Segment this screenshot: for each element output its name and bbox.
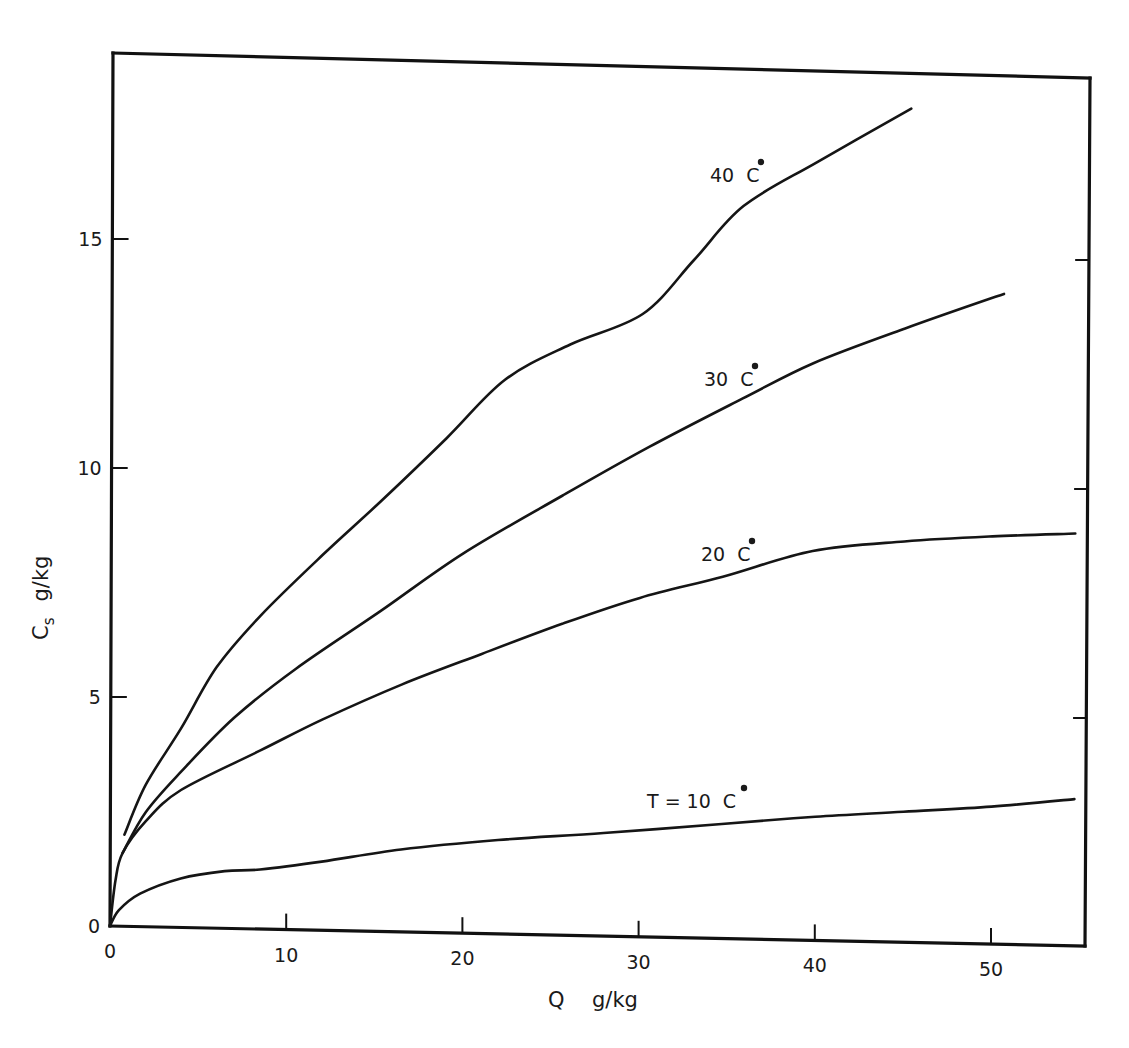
y-axis xyxy=(110,53,113,926)
curve-20-c xyxy=(110,534,1075,927)
x-tick-label: 30 xyxy=(627,951,651,973)
x-tick-label: 20 xyxy=(450,947,474,969)
x-tick-label: 10 xyxy=(274,944,298,966)
y-axis-symbol: C xyxy=(29,625,53,640)
x-axis xyxy=(110,926,1085,946)
series-label: 20 C xyxy=(701,538,755,565)
y-tick-label: 15 xyxy=(78,228,102,250)
adsorption-isotherm-chart: 01020304050 051015 40 C30 C20 CT = 10 C … xyxy=(0,0,1129,1048)
y-axis-title: Csg/kg xyxy=(29,556,58,640)
curve-40-c xyxy=(124,109,911,835)
x-tick-label: 50 xyxy=(979,958,1003,980)
curve-t-10-c xyxy=(110,799,1074,926)
svg-text:20 C: 20 C xyxy=(701,543,751,565)
y-tick-label: 5 xyxy=(89,686,101,708)
y-axis-subscript: s xyxy=(40,617,58,625)
degree-symbol xyxy=(741,785,747,791)
x-axis-ticks: 01020304050 xyxy=(104,914,1003,980)
right-border xyxy=(1085,78,1090,946)
top-border xyxy=(113,53,1090,78)
svg-text:30 C: 30 C xyxy=(704,368,754,390)
series-label: 30 C xyxy=(704,363,758,390)
x-axis-title: Q g/kg xyxy=(548,988,638,1012)
svg-text:T = 10 C: T = 10 C xyxy=(646,790,736,812)
series-labels: 40 C30 C20 CT = 10 C xyxy=(646,159,764,812)
degree-symbol xyxy=(752,363,758,369)
svg-text:Csg/kg: Csg/kg xyxy=(29,556,58,640)
y-tick-label: 0 xyxy=(88,915,100,937)
y-axis-ticks: 051015 xyxy=(78,228,129,937)
series-label: 40 C xyxy=(710,159,764,186)
x-tick-label: 0 xyxy=(104,940,116,962)
y-tick-label: 10 xyxy=(78,457,102,479)
plot-frame xyxy=(110,53,1090,946)
svg-text:40 C: 40 C xyxy=(710,164,760,186)
x-tick-label: 40 xyxy=(803,954,827,976)
degree-symbol xyxy=(749,538,755,544)
series-curves xyxy=(110,109,1075,926)
curve-30-c xyxy=(123,294,1004,853)
x-axis-unit: g/kg xyxy=(592,988,638,1012)
x-axis-symbol: Q xyxy=(548,988,565,1012)
y-axis-unit: g/kg xyxy=(29,556,53,602)
degree-symbol xyxy=(758,159,764,165)
series-label: T = 10 C xyxy=(646,785,747,812)
